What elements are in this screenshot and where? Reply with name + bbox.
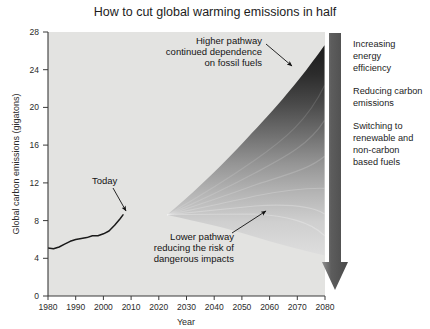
side-note-2-line-2: emissions (353, 98, 394, 108)
side-note-1-line-1: Increasing (353, 39, 395, 49)
x-axis-label: Year (177, 317, 195, 327)
side-note-3-line-4: based fuels (353, 157, 400, 167)
x-tick-label: 2080 (316, 302, 335, 312)
x-tick-label: 2060 (260, 302, 279, 312)
x-tick-label: 2020 (149, 302, 168, 312)
side-note-3-line-2: renewable and (353, 133, 413, 143)
emissions-fan-chart: How to cut global warming emissions in h… (0, 0, 430, 329)
side-note-1-line-3: efficiency (353, 63, 392, 73)
page-title: How to cut global warming emissions in h… (94, 5, 337, 19)
y-axis-label: Global carbon emissions (gigatons) (11, 93, 21, 234)
x-tick-label: 1990 (66, 302, 85, 312)
higher-pathway-line-2: continued dependence (166, 46, 262, 57)
higher-pathway-line-1: Higher pathway (196, 35, 262, 46)
side-note-1-line-2: energy (353, 51, 381, 61)
today-label: Today (92, 175, 118, 186)
x-axis-tick-labels: 1980 1990 2000 2010 2020 2030 2040 2050 … (39, 302, 335, 312)
x-tick-label: 2050 (232, 302, 251, 312)
y-tick-label: 28 (30, 27, 40, 37)
x-tick-label: 2000 (94, 302, 113, 312)
y-tick-label: 12 (30, 178, 40, 188)
y-tick-label: 24 (30, 65, 40, 75)
x-tick-label: 2010 (122, 302, 141, 312)
y-tick-label: 20 (30, 102, 40, 112)
lower-pathway-line-2: reducing the risk of (154, 242, 235, 253)
side-note-3-line-1: Switching to (353, 121, 403, 131)
x-tick-label: 1980 (39, 302, 58, 312)
side-note-3-line-3: non-carbon (353, 145, 399, 155)
figure-container: How to cut global warming emissions in h… (0, 0, 430, 329)
x-tick-label: 2040 (205, 302, 224, 312)
lower-pathway-line-3: dangerous impacts (154, 253, 235, 264)
x-tick-label: 2030 (177, 302, 196, 312)
y-tick-label: 16 (30, 140, 40, 150)
side-note-2-line-1: Reducing carbon (353, 86, 422, 96)
lower-pathway-line-1: Lower pathway (170, 231, 234, 242)
x-tick-label: 2070 (288, 302, 307, 312)
y-tick-label: 8 (34, 216, 39, 226)
higher-pathway-line-3: on fossil fuels (204, 57, 262, 68)
y-tick-label: 0 (34, 291, 39, 301)
y-tick-label: 4 (34, 253, 39, 263)
